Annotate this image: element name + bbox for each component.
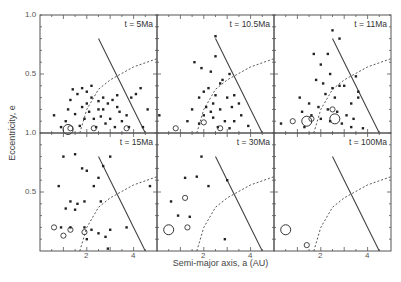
panel-time-label: t = 11Ma — [354, 19, 387, 29]
solid-curve — [333, 157, 380, 251]
panel-5: t = 30Ma — [157, 133, 274, 251]
panel-time-label: t = 15Ma — [120, 137, 154, 147]
y-axis-label: Eccentricity, e — [7, 83, 17, 183]
panel-2: t = 10.5Ma — [157, 15, 274, 133]
solid-curve — [216, 157, 263, 251]
ytick-label-middle: 1.0 — [25, 128, 36, 137]
panel-1: t = 5Ma — [40, 15, 157, 134]
panel-time-label: t = 30Ma — [237, 137, 271, 147]
ytick-label-bottom-mid: 0.5 — [25, 187, 36, 196]
dashed-curve — [314, 59, 391, 133]
panel-time-label: t = 100Ma — [349, 137, 387, 147]
panel-6: t = 100Ma — [274, 133, 391, 251]
solid-curve — [99, 39, 146, 133]
panel-3: t = 11Ma — [274, 15, 391, 133]
panel-4: t = 15Ma — [40, 133, 157, 251]
ytick-label-top-mid: 0.5 — [25, 69, 36, 78]
dashed-curve — [314, 177, 391, 251]
scatter-figure: t = 5Mat = 10.5Mat = 11Mat = 15Mat = 30M… — [0, 0, 401, 282]
dashed-curve — [197, 177, 274, 251]
solid-curve — [216, 39, 263, 133]
x-axis-label: Semi-major axis, a (AU) — [0, 258, 401, 268]
ytick-label-top: 1.0 — [25, 10, 36, 19]
panel-time-label: t = 5Ma — [124, 19, 153, 29]
dashed-curve — [80, 177, 157, 251]
panel-time-label: t = 10.5Ma — [230, 19, 271, 29]
